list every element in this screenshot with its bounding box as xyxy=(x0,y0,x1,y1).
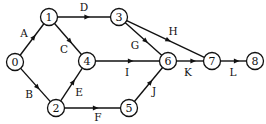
edge-b: B xyxy=(21,68,51,101)
edge-label: J xyxy=(151,85,156,97)
edge-c: C xyxy=(55,23,82,55)
edge-label: C xyxy=(60,43,68,55)
node-1: 1 xyxy=(41,9,58,26)
edge-label: K xyxy=(184,66,192,78)
edge-j: J xyxy=(134,68,162,102)
edge-label: G xyxy=(131,39,139,51)
arrowhead-icon xyxy=(190,59,196,64)
edge-label: D xyxy=(80,1,88,13)
edge-label: A xyxy=(19,27,28,39)
arrowhead-icon xyxy=(84,15,90,20)
node-label: 4 xyxy=(84,55,91,68)
node-label: 5 xyxy=(126,102,133,115)
network-diagram: ABCDEFGHIJKL012345678 xyxy=(0,0,266,124)
node-label: 3 xyxy=(116,11,123,24)
node-8: 8 xyxy=(247,53,264,70)
edge-g: G xyxy=(125,23,161,56)
node-3: 3 xyxy=(111,9,128,26)
edge-l: L xyxy=(221,59,247,78)
edge-a: A xyxy=(19,24,44,55)
edge-label: H xyxy=(168,25,177,37)
arrowhead-icon xyxy=(128,59,134,64)
edge-f: F xyxy=(65,106,121,123)
arrowhead-icon xyxy=(93,106,99,111)
edge-label: L xyxy=(230,66,237,78)
edge-label: F xyxy=(94,111,101,123)
node-label: 0 xyxy=(12,56,19,69)
node-2: 2 xyxy=(48,100,65,117)
node-6: 6 xyxy=(160,53,177,70)
node-label: 2 xyxy=(53,102,60,115)
node-0: 0 xyxy=(7,54,24,71)
edge-line xyxy=(134,68,162,102)
node-7: 7 xyxy=(204,53,221,70)
edge-label: E xyxy=(75,86,83,98)
edge-k: K xyxy=(177,59,204,78)
node-4: 4 xyxy=(79,53,96,70)
node-5: 5 xyxy=(121,100,138,117)
node-label: 6 xyxy=(165,55,172,68)
edge-d: D xyxy=(58,1,111,19)
edge-e: E xyxy=(61,68,83,101)
node-label: 7 xyxy=(209,55,216,68)
edge-i: I xyxy=(96,59,160,78)
edge-label: I xyxy=(125,66,129,78)
arrowhead-icon xyxy=(234,59,240,64)
node-label: 1 xyxy=(46,11,53,24)
node-label: 8 xyxy=(252,55,259,68)
edge-label: B xyxy=(25,88,33,100)
